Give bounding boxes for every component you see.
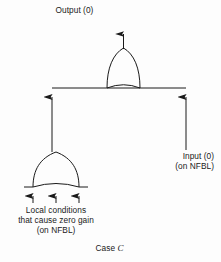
local-label-line1: Local conditions <box>26 205 86 215</box>
local-conditions-label: Local conditions that cause zero gain (o… <box>0 205 112 236</box>
caption-letter: C <box>117 243 123 253</box>
local-label-line2: that cause zero gain <box>0 215 112 225</box>
caption-prefix: Case <box>96 243 118 253</box>
case-c-logic-diagram: Output (0) Input (0) (on NFBL) Local con… <box>0 0 221 262</box>
upper-gate-body <box>107 48 140 88</box>
input-label-line1: Input (0) <box>183 151 214 161</box>
input-label-line2: (on NFBL) <box>0 161 214 171</box>
input-label: Input (0) (on NFBL) <box>0 151 214 171</box>
local-label-line3: (on NFBL) <box>0 225 112 235</box>
output-label: Output (0) <box>0 6 185 16</box>
lower-gate-bottom <box>33 184 79 188</box>
figure-caption: Case C <box>0 244 220 254</box>
